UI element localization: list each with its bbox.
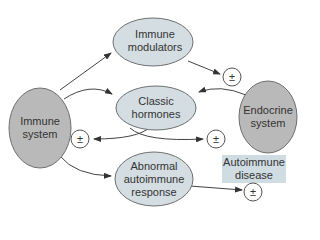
- endocrine-system-label-line1: Endocrine: [243, 104, 293, 117]
- abnormal-response-label-line3: response: [124, 186, 185, 199]
- classic-hormones-label: Classic hormones: [132, 95, 181, 121]
- edge-modulators-to-plusminus: [188, 61, 220, 74]
- endocrine-system-label-line2: system: [243, 117, 293, 130]
- abnormal-response-label-line1: Abnormal: [124, 160, 185, 173]
- immune-modulators-label-line1: Immune: [128, 28, 182, 41]
- classic-hormones-label-line2: hormones: [132, 108, 181, 121]
- autoimmune-disease-label-line1: Autoimmune: [223, 156, 285, 169]
- autoimmune-disease-label: Autoimmune disease: [223, 156, 285, 182]
- immune-modulators-label-line2: modulators: [128, 41, 182, 54]
- abnormal-response-label: Abnormal autoimmune response: [124, 160, 185, 199]
- abnormal-response-label-line2: autoimmune: [124, 173, 185, 186]
- autoimmune-disease-label-line2: disease: [223, 169, 285, 182]
- edge-endocrine-to-hormones: [199, 89, 246, 95]
- immune-system-label-line1: Immune: [20, 115, 60, 128]
- classic-hormones-label-line1: Classic: [132, 95, 181, 108]
- edge-immune-to-modulators: [60, 53, 111, 90]
- immune-system-label-line2: system: [20, 128, 60, 141]
- immune-system-label: Immune system: [20, 115, 60, 141]
- plusminus-symbol-disease: ±: [250, 186, 256, 199]
- immune-modulators-label: Immune modulators: [128, 28, 182, 54]
- plusminus-symbol-endocrine-top: ±: [229, 71, 235, 84]
- edge-abnormal-to-plusminus: [190, 186, 242, 190]
- edge-immune-to-abnormal: [60, 156, 111, 176]
- plusminus-symbol-endocrine: ±: [213, 133, 219, 146]
- edge-immune-to-hormones: [64, 89, 112, 99]
- endocrine-system-label: Endocrine system: [243, 104, 293, 130]
- plusminus-symbol-immune: ±: [77, 133, 83, 146]
